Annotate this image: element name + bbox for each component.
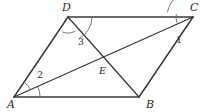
arc-angle-2 — [38, 87, 40, 97]
parallelogram-diagram-svg: ABCDE123 — [0, 0, 207, 112]
angle-label-3: 3 — [78, 36, 84, 47]
arc-angle-unmarked-c — [176, 14, 177, 23]
vertex-label-e: E — [98, 65, 106, 76]
segments-group — [14, 17, 193, 97]
vertex-label-c: C — [190, 1, 199, 14]
arc-angle-1 — [167, 0, 178, 12]
angle-label-2: 2 — [37, 69, 43, 80]
arc-angle-3 — [79, 17, 92, 38]
vertex-label-d: D — [61, 1, 71, 14]
vertex-label-b: B — [145, 98, 154, 111]
arc-angle-unmarked-a — [24, 82, 31, 90]
segment-DB — [68, 17, 139, 97]
geometry-figure: ABCDE123 — [0, 0, 207, 112]
vertex-label-a: A — [6, 98, 15, 111]
arc-angle-unmarked-d — [62, 31, 76, 33]
angle-label-1: 1 — [176, 34, 182, 45]
